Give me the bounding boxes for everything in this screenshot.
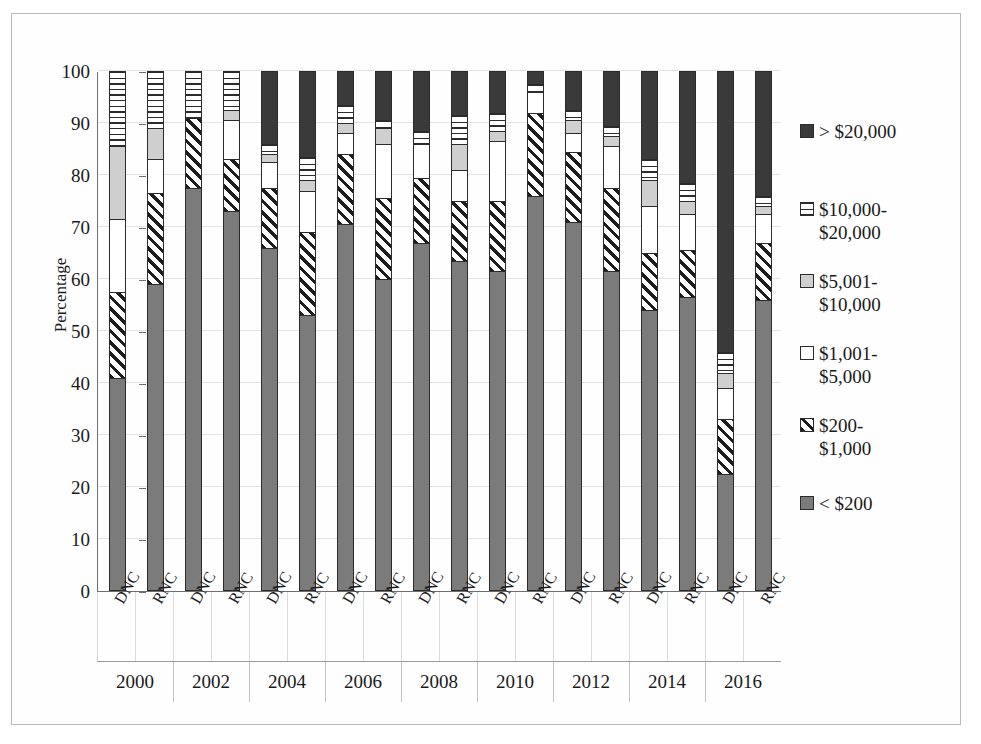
bar-segment-4 (527, 84, 544, 92)
x-tick-separator (477, 592, 478, 661)
legend-item-3[interactable]: $1,001- $5,000 (800, 342, 878, 388)
bar-segment-0 (299, 315, 316, 591)
year-separator (401, 662, 402, 702)
x-tick-separator (743, 592, 744, 661)
bar-segment-1 (527, 113, 544, 196)
year-separator (325, 662, 326, 702)
legend-item-4[interactable]: $200- $1,000 (800, 414, 871, 460)
x-tick-separator (629, 592, 630, 661)
bar-segment-1 (679, 250, 696, 297)
bar-segment-1 (603, 188, 620, 271)
bar-segment-4 (451, 115, 468, 144)
legend-item-0[interactable]: > $20,000 (800, 120, 896, 143)
bar-segment-5 (375, 71, 392, 120)
bar-segment-4 (603, 126, 620, 136)
bar-segment-4 (717, 352, 734, 373)
x-tick-separator (553, 592, 554, 661)
year-separator (173, 662, 174, 702)
bar-segment-5 (679, 71, 696, 183)
legend-swatch-icon-1 (800, 202, 814, 216)
year-label-2012: 2012 (553, 662, 629, 702)
bar-segment-3 (451, 144, 468, 170)
legend-label-1: $10,000- $20,000 (819, 198, 887, 244)
bar-segment-0 (147, 284, 164, 591)
bar-segment-1 (261, 188, 278, 248)
bar-segment-4 (185, 71, 202, 118)
bar-segment-0 (755, 300, 772, 591)
year-separator (249, 662, 250, 702)
bar-segment-1 (489, 201, 506, 271)
bar-segment-2 (261, 162, 278, 188)
bar-segment-4 (299, 157, 316, 180)
bar-segment-2 (223, 120, 240, 159)
bar-segment-0 (185, 188, 202, 591)
bar-segment-0 (261, 248, 278, 591)
y-tick-label-60: 60 (71, 270, 90, 289)
legend-item-1[interactable]: $10,000- $20,000 (800, 198, 887, 244)
bar-segment-1 (451, 201, 468, 261)
bar-segment-2 (679, 214, 696, 250)
bar-segment-3 (755, 206, 772, 214)
bar-segment-1 (109, 292, 126, 378)
bar-segment-2 (717, 388, 734, 419)
year-label-2006: 2006 (325, 662, 401, 702)
year-separator (705, 662, 706, 702)
x-tick-separator (667, 592, 668, 661)
year-label-2000: 2000 (97, 662, 173, 702)
x-tick-separator (591, 592, 592, 661)
legend-swatch-icon-5 (800, 496, 814, 510)
x-tick-separator (211, 592, 212, 661)
bar-segment-5 (603, 71, 620, 126)
bar-segment-2 (337, 133, 354, 154)
bar-segment-2 (565, 133, 582, 151)
bar-segment-5 (413, 71, 430, 131)
bar-segment-3 (603, 136, 620, 146)
y-tick-label-80: 80 (71, 166, 90, 185)
bar-segment-2 (755, 214, 772, 243)
bar-segment-5 (337, 71, 354, 105)
x-tick-separator (249, 592, 250, 661)
bar-segment-0 (489, 271, 506, 591)
bar-segment-4 (413, 131, 430, 144)
bar-segment-4 (641, 159, 658, 180)
bar-segment-3 (717, 373, 734, 389)
y-tick-label-0: 0 (81, 582, 91, 601)
bar-segment-0 (565, 222, 582, 591)
x-tick-separator (325, 592, 326, 661)
bar-segment-0 (451, 261, 468, 591)
bar-segment-3 (641, 180, 658, 206)
bar-segment-0 (527, 196, 544, 591)
y-tick-label-10: 10 (71, 530, 90, 549)
bar-segment-5 (299, 71, 316, 157)
legend-item-5[interactable]: < $200 (800, 492, 872, 515)
legend-swatch-icon-4 (800, 418, 814, 432)
bar-segment-1 (641, 253, 658, 310)
bar-segment-5 (451, 71, 468, 115)
y-axis-ticks: 0102030405060708090100 (50, 0, 90, 744)
x-tick-separator (287, 592, 288, 661)
year-label-2014: 2014 (629, 662, 705, 702)
bar-segment-1 (375, 198, 392, 279)
bar-segment-3 (679, 201, 696, 214)
bar-segment-2 (603, 146, 620, 188)
bar-segment-3 (261, 154, 278, 162)
bar-segment-0 (337, 224, 354, 591)
bar-segment-5 (261, 71, 278, 144)
year-separator (629, 662, 630, 702)
legend-item-2[interactable]: $5,001- $10,000 (800, 270, 881, 316)
legend-swatch-icon-2 (800, 274, 814, 288)
bar-segment-3 (109, 146, 126, 219)
bars-layer (98, 72, 781, 591)
bar-segment-4 (337, 105, 354, 123)
legend-label-4: $200- $1,000 (819, 414, 871, 460)
bar-segment-1 (337, 154, 354, 224)
bar-segment-1 (413, 178, 430, 243)
bar-segment-3 (223, 110, 240, 120)
year-label-2002: 2002 (173, 662, 249, 702)
bar-segment-2 (413, 144, 430, 178)
bar-segment-4 (679, 183, 696, 201)
bar-segment-0 (223, 211, 240, 591)
x-tick-separator (705, 592, 706, 661)
bar-segment-2 (109, 219, 126, 292)
y-tick-label-70: 70 (71, 218, 90, 237)
